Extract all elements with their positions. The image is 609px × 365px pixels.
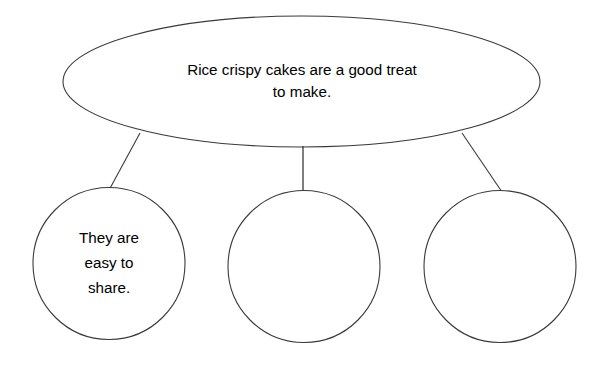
main-idea-ellipse[interactable] [63,16,540,147]
branch-circle-middle[interactable] [228,191,380,343]
branch-circle-right[interactable] [424,191,576,343]
branch-circle-left[interactable] [33,188,185,340]
diagram-svg [0,0,609,365]
connector-left-line [108,133,140,192]
diagram-canvas-container: Rice crispy cakes are a good treat to ma… [0,0,609,365]
connector-right-line [462,133,502,192]
